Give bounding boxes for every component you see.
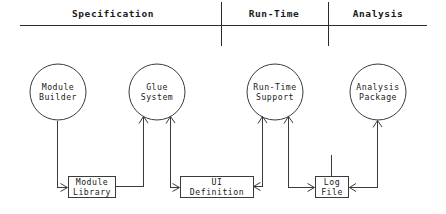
phase-label-analysis: Analysis	[353, 8, 404, 19]
phase-label-run-time: Run-Time	[249, 8, 300, 19]
flow-glue-system-to-ui-definition	[166, 117, 180, 192]
flow-run-time-support-to-log-file	[284, 117, 315, 192]
data-store-log-file[interactable]: Log File	[316, 177, 349, 198]
module-library-label-line2: Library	[73, 187, 111, 197]
data-store-ui-definition[interactable]: UI Definition	[181, 177, 254, 198]
architecture-diagram: Specification Run-Time Analysis	[0, 0, 446, 214]
process-node-module-builder[interactable]: Module Builder	[30, 64, 86, 120]
data-store-module-library[interactable]: Module Library	[69, 177, 116, 198]
process-node-analysis-package[interactable]: Analysis Package	[350, 64, 406, 120]
process-node-glue-system[interactable]: Glue System	[129, 64, 185, 120]
module-builder-label-line1: Module	[42, 82, 75, 92]
module-library-label-line1: Module	[76, 177, 109, 187]
flow-library-to-glue-system	[116, 117, 148, 187]
module-builder-label-line2: Builder	[39, 92, 77, 102]
glue-system-label-line2: System	[141, 92, 174, 102]
flow-log-file-to-analysis-package	[349, 121, 382, 192]
analysis-package-label-line2: Package	[359, 92, 397, 102]
ui-definition-label-line2: Definition	[190, 187, 244, 197]
ui-definition-label-line1: UI	[212, 177, 223, 187]
phase-label-specification: Specification	[72, 8, 154, 19]
run-time-support-label-line2: Support	[256, 92, 294, 102]
glue-system-label-line1: Glue	[146, 82, 168, 92]
log-file-label-line2: File	[321, 187, 343, 197]
analysis-package-label-line1: Analysis	[356, 82, 399, 92]
log-file-label-line1: Log	[324, 177, 340, 187]
flow-ui-definition-to-run-time-support	[254, 117, 268, 191]
diagram-canvas: Specification Run-Time Analysis	[0, 0, 446, 214]
process-node-run-time-support[interactable]: Run-Time Support	[247, 64, 303, 120]
run-time-support-label-line1: Run-Time	[253, 82, 296, 92]
flow-module-builder-to-library	[58, 121, 68, 192]
